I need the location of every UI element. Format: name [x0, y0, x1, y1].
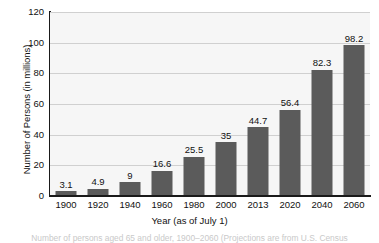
plot-area: 3.14.9916.625.53544.756.482.398.2: [50, 12, 370, 196]
x-tick-label: 2020: [274, 200, 306, 210]
y-tick-label: 100: [8, 38, 44, 48]
bar-value-label: 25.5: [185, 145, 204, 155]
bar-slot: 9: [114, 12, 146, 196]
bar[interactable]: [344, 45, 365, 196]
bar-value-label: 98.2: [345, 34, 364, 44]
x-tick-label: 1920: [82, 200, 114, 210]
bar-value-label: 16.6: [153, 159, 172, 169]
bar-slot: 56.4: [274, 12, 306, 196]
bar[interactable]: [280, 110, 301, 196]
x-tick-label: 2040: [306, 200, 338, 210]
source-caption: Number of persons aged 65 and older, 190…: [0, 233, 379, 243]
bar-value-label: 3.1: [59, 180, 72, 190]
bar-slot: 35: [210, 12, 242, 196]
x-tick-label: 1960: [146, 200, 178, 210]
bar-slot: 44.7: [242, 12, 274, 196]
x-axis-line: [49, 195, 371, 197]
bar-slot: 16.6: [146, 12, 178, 196]
y-tick-label: 120: [8, 7, 44, 17]
x-tick-label: 2013: [242, 200, 274, 210]
x-axis-title: Year (as of July 1): [0, 215, 379, 226]
x-tick-label: 1980: [178, 200, 210, 210]
bar-series: 3.14.9916.625.53544.756.482.398.2: [50, 12, 370, 196]
y-tick-label: 0: [8, 191, 44, 201]
bar-slot: 25.5: [178, 12, 210, 196]
bar-value-label: 9: [127, 171, 132, 181]
y-tick-label: 20: [8, 160, 44, 170]
x-tick-label: 1940: [114, 200, 146, 210]
x-tick-label: 1900: [50, 200, 82, 210]
bar[interactable]: [248, 127, 269, 196]
bar[interactable]: [152, 171, 173, 196]
bar-value-label: 35: [221, 131, 232, 141]
bar-slot: 4.9: [82, 12, 114, 196]
bar[interactable]: [184, 157, 205, 196]
bar[interactable]: [120, 182, 141, 196]
bar-value-label: 4.9: [91, 177, 104, 187]
bar-value-label: 56.4: [281, 98, 300, 108]
bar[interactable]: [312, 70, 333, 196]
y-axis-title: Number of Persons (in millions): [21, 22, 32, 198]
y-tick-label: 40: [8, 130, 44, 140]
y-tick-label: 80: [8, 68, 44, 78]
bar[interactable]: [216, 142, 237, 196]
bar-slot: 3.1: [50, 12, 82, 196]
bar-value-label: 82.3: [313, 58, 332, 68]
bar-value-label: 44.7: [249, 116, 268, 126]
y-tick-label: 60: [8, 99, 44, 109]
bar-slot: 82.3: [306, 12, 338, 196]
x-tick-label: 2000: [210, 200, 242, 210]
x-tick-label: 2060: [338, 200, 370, 210]
bar-slot: 98.2: [338, 12, 370, 196]
